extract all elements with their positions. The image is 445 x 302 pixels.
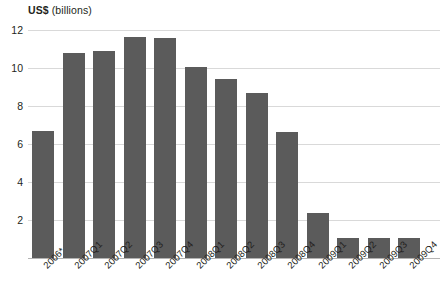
bar-2007Q3[interactable] (124, 37, 146, 258)
y-tick-label: 10 (11, 63, 23, 74)
x-label-slot: 2009Q3 (364, 259, 395, 302)
bar-2007Q2[interactable] (93, 51, 115, 258)
bar-slot (28, 30, 59, 258)
y-tick-label: 6 (17, 139, 23, 150)
y-axis-title: US$ (billions) (28, 4, 92, 16)
x-label-slot: 2007Q2 (89, 259, 120, 302)
bar-2008Q1[interactable] (185, 67, 207, 258)
x-label-slot: 2008Q1 (181, 259, 212, 302)
bar-chart: US$ (billions) 12108642 2006*2007Q12007Q… (0, 0, 445, 302)
x-label-slot: 2008Q3 (242, 259, 273, 302)
bar-2007Q1[interactable] (63, 53, 85, 258)
bar-2007Q4[interactable] (154, 38, 176, 258)
bar-slot (303, 30, 334, 258)
bar-slot (242, 30, 273, 258)
y-axis-unit-qualifier: (billions) (49, 4, 92, 16)
bar-slot (59, 30, 90, 258)
x-label-slot: 2007Q1 (59, 259, 90, 302)
bar-2008Q3[interactable] (246, 93, 268, 258)
bar-slot (333, 30, 364, 258)
x-label-slot: 2009Q1 (303, 259, 334, 302)
bar-2006*[interactable] (32, 131, 54, 258)
x-label-slot: 2007Q3 (120, 259, 151, 302)
x-label-slot: 2009Q4 (394, 259, 425, 302)
bar-slot (394, 30, 425, 258)
x-label-slot: 2009Q2 (333, 259, 364, 302)
x-label-slot: 2007Q4 (150, 259, 181, 302)
bar-slot (211, 30, 242, 258)
y-axis-unit: US$ (28, 4, 49, 16)
bar-slot (364, 30, 395, 258)
x-axis-labels: 2006*2007Q12007Q22007Q32007Q42008Q12008Q… (28, 259, 440, 302)
bar-2008Q2[interactable] (215, 79, 237, 258)
x-label-slot: 2006* (28, 259, 59, 302)
bar-slot (150, 30, 181, 258)
bar-slot (272, 30, 303, 258)
bar-slot (181, 30, 212, 258)
y-tick-label: 8 (17, 101, 23, 112)
plot-area: 12108642 (28, 30, 440, 258)
y-tick-label: 2 (17, 215, 23, 226)
y-tick-label: 4 (17, 177, 23, 188)
x-label-slot: 2008Q4 (272, 259, 303, 302)
x-label-slot: 2008Q2 (211, 259, 242, 302)
bar-slot (120, 30, 151, 258)
bar-slot (89, 30, 120, 258)
y-tick-label: 12 (11, 25, 23, 36)
bars-group (28, 30, 440, 258)
